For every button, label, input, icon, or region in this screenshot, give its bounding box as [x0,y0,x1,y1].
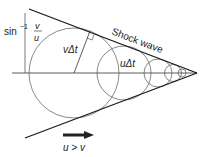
shock-wave-lower [25,73,197,138]
shock-wave-diagram: sin −1 v u vΔt uΔt Shock wave u > v [0,0,208,157]
shock-wave-upper [29,9,197,73]
angle-label-exp: −1 [20,23,28,30]
angle-label-sin: sin [4,26,17,37]
angle-frac-num: v [35,21,40,31]
condition-label: u > v [63,142,86,153]
radius-label: vΔt [63,44,79,55]
motion-arrow-head [84,131,94,139]
diagram-canvas: sin −1 v u vΔt uΔt Shock wave u > v [0,0,208,157]
distance-label: uΔt [120,58,136,69]
angle-frac-den: u [34,33,39,43]
